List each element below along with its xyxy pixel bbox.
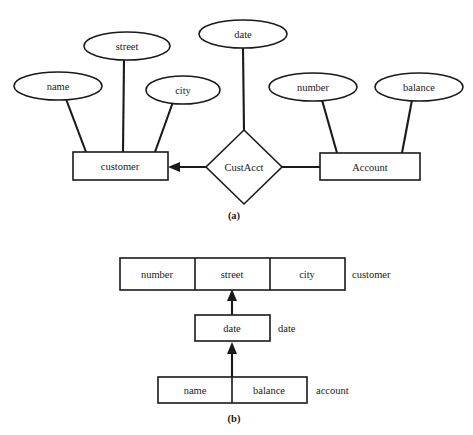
edge-date-to-custacct bbox=[243, 48, 244, 131]
attribute-label-city: city bbox=[175, 85, 191, 96]
entity-label-customer: customer bbox=[101, 161, 140, 172]
record-side-label-date: date bbox=[278, 323, 296, 334]
record-cell-account-balance: balance bbox=[253, 385, 285, 396]
record-side-label-account: account bbox=[316, 385, 349, 396]
entity-label-account: Account bbox=[352, 162, 388, 173]
arrow-head-icon-customer bbox=[168, 162, 180, 172]
record-cell-account-name: name bbox=[184, 385, 207, 396]
attribute-label-number: number bbox=[297, 82, 330, 93]
record-cell-customer-number: number bbox=[141, 269, 174, 280]
edge-number-to-account bbox=[322, 100, 337, 153]
edge-city-to-customer bbox=[155, 102, 173, 152]
attribute-label-street: street bbox=[116, 41, 139, 52]
caption-panel-b: (b) bbox=[228, 413, 241, 425]
relationship-label-custacct: CustAcct bbox=[224, 162, 263, 173]
record-cell-customer-city: city bbox=[299, 269, 315, 280]
caption-panel-a: (a) bbox=[228, 210, 241, 222]
record-cell-customer-street: street bbox=[221, 269, 244, 280]
er-figure: name street city date number balance cus… bbox=[0, 0, 473, 435]
record-cell-date-date: date bbox=[223, 323, 241, 334]
record-side-label-customer: customer bbox=[352, 269, 391, 280]
edge-balance-to-account bbox=[402, 100, 412, 153]
attribute-label-balance: balance bbox=[403, 82, 435, 93]
edge-name-to-customer bbox=[66, 99, 86, 152]
attribute-label-name: name bbox=[47, 81, 70, 92]
edge-street-to-customer bbox=[123, 60, 124, 152]
arrow-head-icon-date bbox=[227, 342, 237, 354]
figure-canvas: name street city date number balance cus… bbox=[0, 0, 473, 435]
attribute-label-date: date bbox=[234, 29, 252, 40]
